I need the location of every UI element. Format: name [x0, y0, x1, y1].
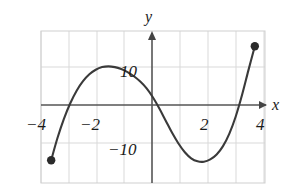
- x-axis-name: x: [271, 96, 279, 113]
- y-tick-label-neg10: −10: [108, 140, 137, 159]
- figure-background: [0, 0, 297, 194]
- x-tick-label-neg4: −4: [26, 115, 46, 134]
- x-tick-label-neg2: −2: [80, 115, 100, 134]
- endpoint-left-dot: [47, 156, 55, 164]
- y-tick-label-10: 10: [120, 62, 138, 81]
- cubic-function-plot: −4 −2 2 4 10 −10 y x: [0, 0, 297, 194]
- graph-figure: −4 −2 2 4 10 −10 y x: [0, 0, 297, 194]
- y-axis-name: y: [143, 8, 153, 26]
- x-tick-label-2: 2: [200, 115, 209, 134]
- endpoint-right-dot: [251, 42, 259, 50]
- x-tick-label-4: 4: [256, 115, 265, 134]
